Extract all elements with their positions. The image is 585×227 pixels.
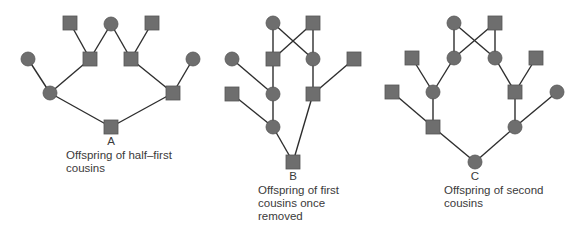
male-square-icon xyxy=(347,52,361,66)
male-square-icon xyxy=(286,155,300,169)
male-square-icon xyxy=(166,86,180,100)
female-circle-icon xyxy=(266,87,280,101)
pedigree-caption-a: Offspring of half–first cousins xyxy=(66,149,172,175)
female-circle-icon xyxy=(447,16,461,30)
relationship-line xyxy=(293,94,313,162)
female-circle-icon xyxy=(426,85,440,99)
female-circle-icon xyxy=(447,51,461,65)
female-circle-icon xyxy=(225,52,239,66)
pedigree-caption-c: Offspring of second cousins xyxy=(444,184,544,210)
female-circle-icon xyxy=(550,85,564,99)
male-square-icon xyxy=(306,87,320,101)
female-circle-icon xyxy=(43,86,57,100)
male-square-icon xyxy=(104,120,118,134)
male-square-icon xyxy=(488,16,502,30)
male-square-icon xyxy=(508,85,522,99)
pedigree-letter-b: B xyxy=(283,170,303,182)
caption-line: cousins xyxy=(66,162,172,175)
caption-line: Offspring of half–first xyxy=(66,149,172,162)
pedigree-letter-a: A xyxy=(101,135,121,147)
male-square-icon xyxy=(306,16,320,30)
female-circle-icon xyxy=(21,52,35,66)
relationship-line xyxy=(475,127,515,162)
female-circle-icon xyxy=(468,155,482,169)
caption-line: cousins once xyxy=(258,197,339,210)
caption-line: removed xyxy=(258,210,339,223)
female-circle-icon xyxy=(266,120,280,134)
male-square-icon xyxy=(83,52,97,66)
female-circle-icon xyxy=(104,17,118,31)
female-circle-icon xyxy=(488,51,502,65)
male-square-icon xyxy=(529,51,543,65)
female-circle-icon xyxy=(186,52,200,66)
male-square-icon xyxy=(266,52,280,66)
caption-line: Offspring of first xyxy=(258,184,339,197)
male-square-icon xyxy=(405,51,419,65)
female-circle-icon xyxy=(266,16,280,30)
male-square-icon xyxy=(124,52,138,66)
male-square-icon xyxy=(426,120,440,134)
pedigree-caption-b: Offspring of first cousins once removed xyxy=(258,184,339,223)
female-circle-icon xyxy=(306,52,320,66)
caption-line: Offspring of second xyxy=(444,184,544,197)
male-square-icon xyxy=(63,16,77,30)
caption-line: cousins xyxy=(444,197,544,210)
male-square-icon xyxy=(225,87,239,101)
female-circle-icon xyxy=(508,120,522,134)
male-square-icon xyxy=(145,16,159,30)
pedigree-letter-c: C xyxy=(465,170,485,182)
relationship-line xyxy=(50,93,111,127)
relationship-line xyxy=(111,93,173,127)
male-square-icon xyxy=(385,85,399,99)
